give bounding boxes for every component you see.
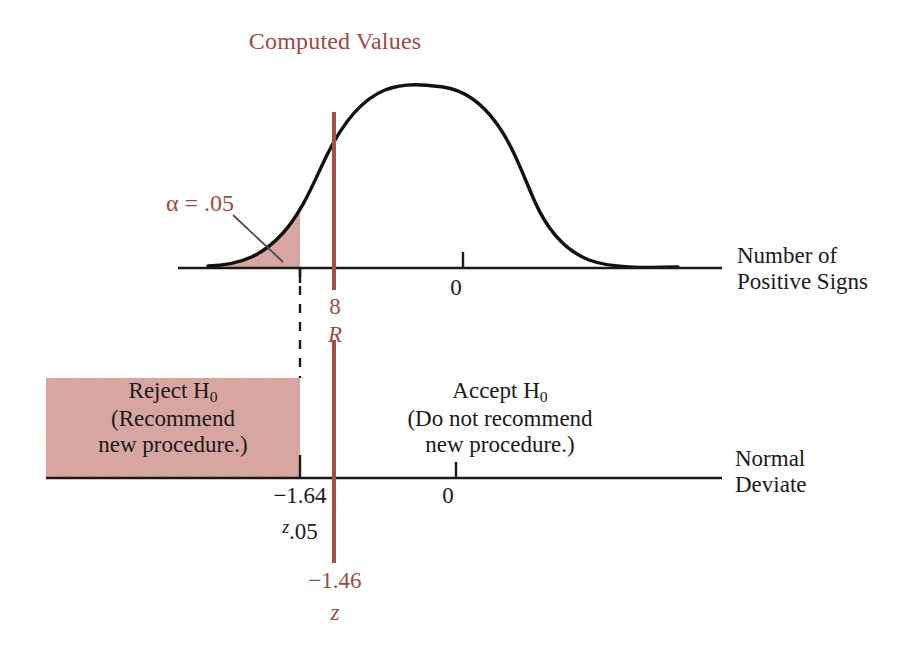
bottom-axis-label-line2: Deviate [735,472,807,498]
computed-count-label: 8 [329,294,341,320]
reject-region-line1: Reject H0 [98,378,247,406]
alpha-level-text: α = .05 [166,190,234,216]
accept-region-line1: Accept H0 [407,378,592,406]
top-axis-label: Number of Positive Signs [737,243,868,295]
alpha-level-label: α = .05 [166,190,234,217]
computed-values-annotation: Computed Values [249,28,422,55]
top-axis-label-line2: Positive Signs [737,269,868,295]
normal-curve [208,85,678,268]
reject-region-label: Reject H0 (Recommend new procedure.) [98,378,247,457]
accept-region-subscript: 0 [540,388,548,405]
computed-z-symbol: z [331,600,340,626]
reject-region-line1-text: Reject H [129,378,210,403]
statistics-figure: Computed Values α = .05 Number of Positi… [0,0,910,655]
accept-region-line2: (Do not recommend [407,406,592,432]
top-axis-label-line1: Number of [737,243,868,269]
reject-region-subscript: 0 [210,388,218,405]
computed-z-symbol-text: z [331,600,340,625]
accept-region-label: Accept H0 (Do not recommend new procedur… [407,378,592,457]
accept-region-line3: new procedure.) [407,432,592,458]
computed-values-text: Computed Values [249,28,422,54]
bottom-axis-zero-label: 0 [442,483,454,509]
reject-region-line2: (Recommend [98,406,247,432]
bottom-axis-label: Normal Deviate [735,446,807,498]
top-axis-zero-label: 0 [450,275,462,301]
critical-value-label: −1.64 [273,483,326,509]
critical-value-symbol: z.05 [282,517,318,545]
figure-canvas [0,0,910,655]
computed-z-value-label: −1.46 [308,568,361,594]
accept-region-line1-text: Accept H [452,378,540,403]
critical-symbol-subscript: .05 [289,519,318,544]
reject-region-line3: new procedure.) [98,432,247,458]
statistic-symbol-text: R [328,322,342,347]
bottom-axis-label-line1: Normal [735,446,807,472]
computed-statistic-symbol: R [328,322,342,348]
critical-symbol-z: z [282,517,289,537]
